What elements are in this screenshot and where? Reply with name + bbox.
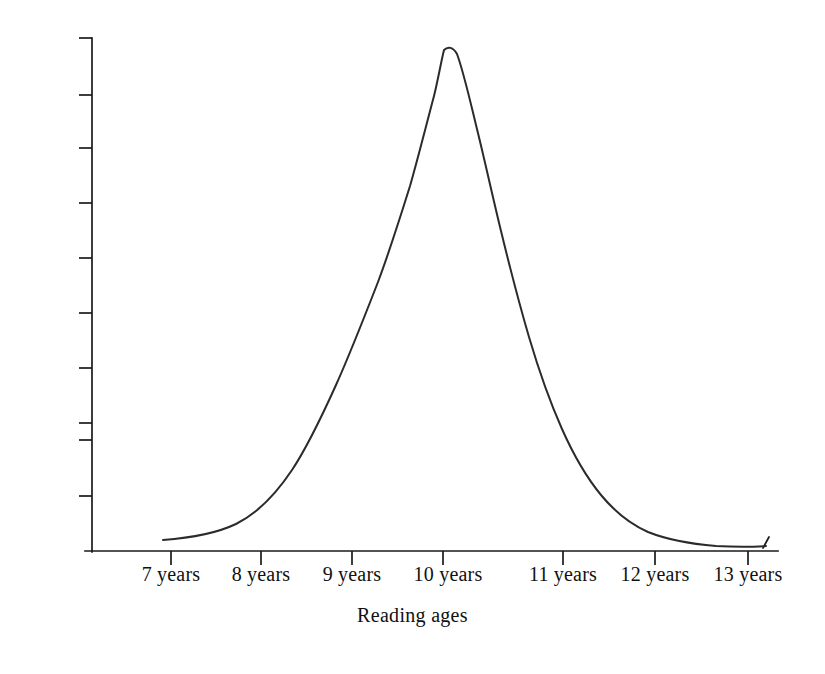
distribution-curve (163, 48, 766, 547)
xtick-label-8: 8 years (232, 563, 291, 586)
x-axis-title: Reading ages (0, 604, 825, 627)
xtick-label-9: 9 years (323, 563, 382, 586)
chart-plot-area (0, 0, 825, 674)
y-axis (79, 38, 92, 552)
xtick-label-10: 10 years (414, 563, 483, 586)
xtick-label-13: 13 years (714, 563, 783, 586)
xtick-label-7: 7 years (142, 563, 201, 586)
xtick-label-12: 12 years (621, 563, 690, 586)
x-axis (85, 537, 778, 565)
chart-container: 7 years 8 years 9 years 10 years 11 year… (0, 0, 825, 674)
xtick-label-11: 11 years (529, 563, 597, 586)
